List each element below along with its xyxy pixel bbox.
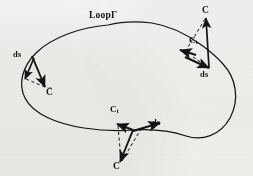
loop-label: LoopΓ (89, 11, 117, 21)
label-c-left: →C (46, 86, 53, 98)
diagram-canvas (0, 0, 253, 176)
label-ct-top-right: Ct (189, 36, 198, 46)
label-c-top-right: C (202, 6, 209, 16)
label-ds-top-right: ds (200, 70, 208, 79)
label-ct-bottom-subscript: t (116, 107, 118, 114)
label-c-left-base: C (46, 87, 53, 97)
label-ds-left: ds (13, 50, 21, 59)
loop-gamma-figure: LoopΓ C Ct ds ds →C Ct ds C (0, 0, 253, 176)
label-c-bottom: C (113, 162, 120, 172)
annotation-bottom (117, 123, 160, 162)
vector-arrow-c-top-right (206, 18, 209, 68)
vector-arrow-ds-top-right (185, 57, 209, 68)
closed-loop-curve (22, 22, 236, 138)
vector-arrow-ct-top-right (180, 50, 196, 55)
label-ds-bottom: ds (152, 118, 160, 127)
annotation-left (25, 56, 45, 87)
label-ct-top-right-subscript: t (195, 38, 197, 45)
label-ct-bottom: Ct (110, 105, 119, 115)
vector-arrow-ct-bottom (117, 124, 133, 130)
